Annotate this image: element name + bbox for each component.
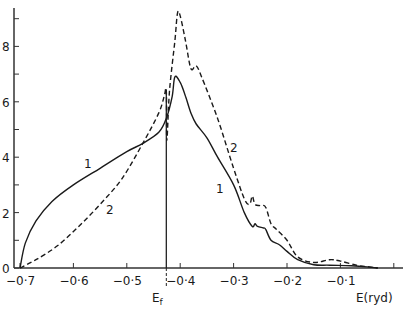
series-2-curve [20, 11, 378, 268]
series-1-curve [20, 76, 378, 268]
x-tick-label: −0·1 [326, 274, 355, 288]
x-tick-label: −0·3 [220, 274, 249, 288]
x-tick-label: −0·6 [59, 274, 88, 288]
x-tick-label: −0·7 [6, 274, 35, 288]
series-2-label-left: 2 [106, 203, 114, 217]
series-2-label-right: 2 [230, 141, 238, 155]
y-tick-label: 4 [2, 151, 10, 165]
x-axis-label: E(ryd) [356, 291, 393, 305]
fermi-energy-label: Ef [152, 291, 164, 307]
axes: 02468−0·7−0·6−0·5−0·4−0·3−0·2−0·1 [2, 8, 403, 288]
series-1-label-right: 1 [216, 182, 224, 196]
x-tick-label: −0·5 [113, 274, 142, 288]
curves [20, 11, 378, 268]
series-1-label-left: 1 [84, 157, 92, 171]
y-tick-label: 2 [2, 207, 10, 221]
y-tick-label: 8 [2, 40, 10, 54]
y-tick-label: 6 [2, 96, 10, 110]
density-of-states-chart: 02468−0·7−0·6−0·5−0·4−0·3−0·2−0·1 1 2 1 … [0, 0, 407, 310]
fermi-sub: f [160, 297, 164, 307]
fermi-e: E [152, 291, 160, 305]
x-tick-label: −0·4 [166, 274, 195, 288]
x-tick-label: −0·2 [273, 274, 302, 288]
